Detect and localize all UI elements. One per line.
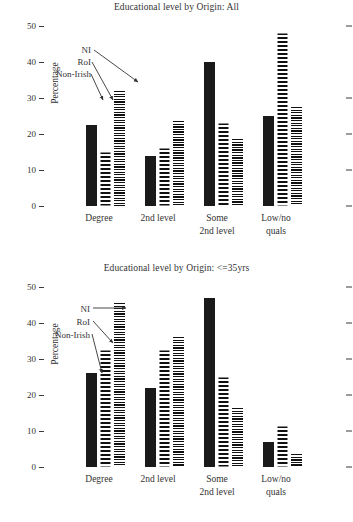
bar-non-irish-4 [291, 454, 302, 467]
bar-non-irish-4 [291, 107, 302, 206]
right-tick-50-under35 [346, 287, 352, 288]
y-tick-20-under35: 20 [14, 390, 44, 400]
callout-label-non-irish-under35: Non-Irish [24, 330, 90, 340]
callout-label-ni-under35: NI [58, 304, 90, 314]
figure-caption [2, 514, 353, 522]
right-tick-0-all [346, 206, 352, 207]
callout-label-non-irish-all: Non-Irish [35, 69, 91, 79]
bar-roi-4 [277, 33, 288, 206]
x-label-some-2nd-level-all: Some 2nd level [199, 212, 234, 238]
x-label-degree-all: Degree [85, 212, 112, 225]
right-tick-40-under35 [346, 323, 352, 324]
y-tick-30-all: 30 [14, 93, 44, 103]
chart-under35: Educational level by Origin: <=35yrs Per… [0, 261, 353, 522]
bar-ni-4 [263, 116, 274, 206]
y-tick-10-all: 10 [14, 165, 44, 175]
x-label-low-no-quals-under35: Low/no quals [261, 473, 291, 499]
callout-label-roi-all: RoI [56, 57, 91, 67]
x-label-degree-under35: Degree [85, 473, 112, 486]
y-tick-0-all: 0 [14, 201, 44, 211]
bar-roi-2 [159, 148, 170, 206]
callout-label-roi-under35: RoI [55, 317, 90, 327]
y-tick-50-under35: 50 [14, 282, 44, 292]
y-tick-10-under35: 10 [14, 426, 44, 436]
right-tick-30-under35 [346, 359, 352, 360]
bar-ni-1 [86, 125, 97, 206]
bar-ni-2 [145, 156, 156, 206]
bars-under35 [46, 287, 306, 467]
y-tick-20-all: 20 [14, 129, 44, 139]
bar-ni-4 [263, 442, 274, 467]
x-label-some-2nd-level-under35: Some 2nd level [199, 473, 234, 499]
y-tick-40-all: 40 [14, 57, 44, 67]
right-tick-0-under35 [346, 467, 352, 468]
y-tick-50-all: 50 [14, 21, 44, 31]
bar-non-irish-1 [114, 91, 125, 206]
y-tick-30-under35: 30 [14, 354, 44, 364]
right-tick-20-under35 [346, 395, 352, 396]
bar-ni-1 [86, 373, 97, 467]
right-tick-10-under35 [346, 431, 352, 432]
bar-roi-3 [218, 123, 229, 206]
callout-label-ni-all: NI [59, 45, 91, 55]
x-label-2nd-level-all: 2nd level [140, 212, 175, 225]
bar-non-irish-1 [114, 303, 125, 467]
bar-roi-2 [159, 350, 170, 467]
bar-ni-2 [145, 388, 156, 467]
right-tick-20-all [346, 134, 352, 135]
bar-roi-4 [277, 426, 288, 467]
chart-all: Educational level by Origin: All Percent… [0, 0, 353, 261]
right-tick-10-all [346, 170, 352, 171]
chart-title-all: Educational level by Origin: All [0, 2, 353, 12]
bar-roi-1 [100, 152, 111, 206]
x-label-low-no-quals-all: Low/no quals [261, 212, 291, 238]
bar-non-irish-2 [173, 337, 184, 467]
chart-title-under35: Educational level by Origin: <=35yrs [0, 263, 353, 273]
right-tick-30-all [346, 98, 352, 99]
y-tick-0-under35: 0 [14, 462, 44, 472]
y-tick-40-under35: 40 [14, 318, 44, 328]
bar-roi-1 [100, 350, 111, 467]
bar-non-irish-2 [173, 121, 184, 206]
bar-ni-3 [204, 62, 215, 206]
x-label-2nd-level-under35: 2nd level [140, 473, 175, 486]
bar-roi-3 [218, 377, 229, 467]
bar-non-irish-3 [232, 408, 243, 467]
bar-ni-3 [204, 298, 215, 467]
bar-non-irish-3 [232, 139, 243, 206]
plot-area-under35: Percentage 50 40 30 20 10 0 Degree 2nd l… [46, 287, 306, 467]
right-tick-50-all [346, 26, 352, 27]
